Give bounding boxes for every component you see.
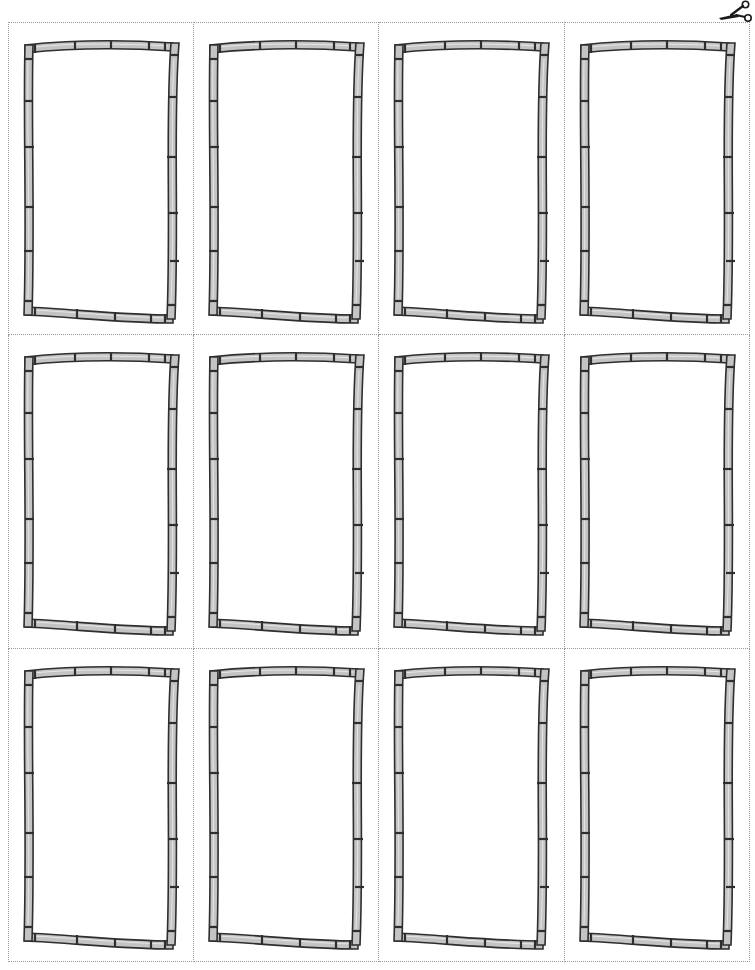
card-cell <box>8 22 194 335</box>
card-cell <box>194 649 380 962</box>
card-cell <box>8 649 194 962</box>
bamboo-frame-icon <box>23 665 181 949</box>
card-cell <box>379 22 565 335</box>
card-sheet <box>8 22 750 962</box>
bamboo-frame-icon <box>579 351 737 635</box>
card-cell <box>379 649 565 962</box>
bamboo-frame-icon <box>23 351 181 635</box>
bamboo-frame-icon <box>393 351 551 635</box>
bamboo-frame-icon <box>393 665 551 949</box>
bamboo-frame-icon <box>208 351 366 635</box>
card-cell <box>8 335 194 648</box>
card-cell <box>565 22 751 335</box>
bamboo-frame-icon <box>208 665 366 949</box>
card-grid <box>8 22 750 962</box>
card-cell <box>565 649 751 962</box>
scissors-icon <box>717 0 753 24</box>
bamboo-frame-icon <box>23 39 181 323</box>
card-cell <box>194 335 380 648</box>
card-cell <box>565 335 751 648</box>
bamboo-frame-icon <box>393 39 551 323</box>
bamboo-frame-icon <box>579 39 737 323</box>
card-cell <box>379 335 565 648</box>
bamboo-frame-icon <box>208 39 366 323</box>
bamboo-frame-icon <box>579 665 737 949</box>
card-cell <box>194 22 380 335</box>
